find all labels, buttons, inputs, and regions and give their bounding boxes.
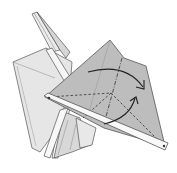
reference-point (163, 145, 165, 147)
reference-point (48, 97, 50, 99)
origami-diagram (0, 0, 177, 173)
